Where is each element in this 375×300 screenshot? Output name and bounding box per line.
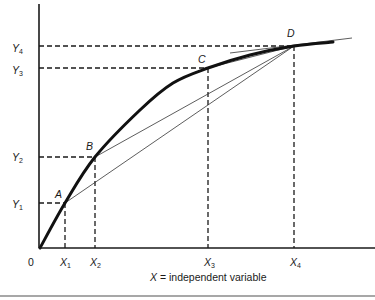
- x-label-2: X2: [89, 256, 101, 269]
- x-label-3: X3: [203, 256, 215, 269]
- function-curve: [40, 42, 333, 248]
- y-label-3: Y3: [12, 64, 23, 77]
- point-label-b: B: [86, 140, 93, 152]
- chord-a-d: [65, 46, 294, 203]
- point-label-c: C: [198, 53, 206, 65]
- origin-label: 0: [28, 256, 34, 268]
- function-diagram: A B C D Y1 Y2 Y3 Y4 0 X1 X2 X3 X4 X = in…: [0, 0, 375, 300]
- point-label-a: A: [54, 188, 62, 200]
- x-label-1: X1: [59, 256, 71, 269]
- chord-b-d: [95, 46, 294, 157]
- y-label-1: Y1: [12, 198, 23, 211]
- y-label-4: Y4: [12, 42, 23, 55]
- y-label-2: Y2: [12, 151, 23, 164]
- point-label-d: D: [287, 27, 295, 39]
- x-axis-caption: X = independent variable: [149, 271, 267, 283]
- guide-lines: [39, 46, 294, 248]
- x-label-4: X4: [289, 256, 301, 269]
